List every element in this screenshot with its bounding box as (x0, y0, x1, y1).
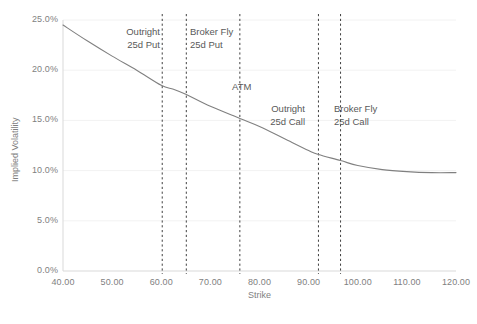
implied-volatility-chart: 0.0%5.0%10.0%15.0%20.0%25.0% 40.0050.006… (0, 0, 477, 324)
y-tick-label: 20.0% (12, 64, 58, 74)
x-tick-label: 100.00 (332, 277, 384, 287)
annotation-outright-25d-call: Outright25d Call (235, 103, 305, 128)
marker-lines (162, 14, 340, 274)
annotation-line-1: Outright (235, 103, 305, 116)
x-tick-label: 70.00 (184, 277, 236, 287)
annotation-broker-fly-25d-put: Broker Fly25d Put (190, 26, 260, 51)
annotation-line-2: 25d Call (235, 116, 305, 129)
annotation-line-1: Broker Fly (334, 103, 404, 116)
x-tick-label: 120.00 (430, 277, 477, 287)
y-tick-label: 0.0% (12, 265, 58, 275)
x-tick-label: 110.00 (381, 277, 433, 287)
x-axis-title: Strike (230, 290, 290, 300)
x-tick-label: 80.00 (234, 277, 286, 287)
annotation-outright-25d-put: Outright25d Put (90, 26, 160, 51)
y-axis-title: Implied Volatility (10, 117, 20, 182)
y-tick-label: 5.0% (12, 215, 58, 225)
annotation-line-1: Broker Fly (190, 26, 260, 39)
x-tick-label: 40.00 (37, 277, 89, 287)
annotation-line-2: 25d Put (190, 39, 260, 52)
x-tick-label: 60.00 (135, 277, 187, 287)
annotation-atm: ATM (232, 81, 302, 94)
x-tick-label: 50.00 (86, 277, 138, 287)
annotation-line-1: Outright (90, 26, 160, 39)
annotation-broker-fly-25d-call: Broker Fly25d Call (334, 103, 404, 128)
x-tick-label: 90.00 (283, 277, 335, 287)
annotation-line-2: 25d Call (334, 116, 404, 129)
annotation-line-2: 25d Put (90, 39, 160, 52)
y-tick-label: 25.0% (12, 14, 58, 24)
annotation-line-1: ATM (232, 81, 302, 94)
